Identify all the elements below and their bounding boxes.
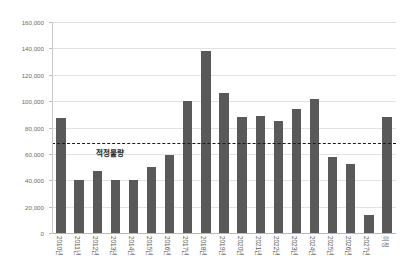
y-tick-mark [49,101,52,102]
y-tick-mark [49,22,52,23]
bars-layer [52,22,396,233]
bar [147,167,156,233]
x-tick-label: 2022년 [272,236,281,256]
y-axis-labels: 160,000140,000120,000100,00080,00060,000… [0,0,48,280]
bar-chart: 160,000140,000120,000100,00080,00060,000… [0,0,414,280]
plot-area: 적정물량 [52,22,396,233]
bar [111,180,120,233]
x-tick-label: 2016년 [163,236,172,256]
x-tick-label: 2015년 [145,236,154,256]
y-tick-label: 80,000 [25,124,44,131]
bar [93,171,102,233]
x-tick-label: 2026년 [344,236,353,256]
bar [56,118,65,233]
bar [165,155,174,233]
x-tick-label: 2012년 [91,236,100,256]
bar [310,99,319,234]
x-tick-label: 2014년 [127,236,136,256]
x-tick-label: 2020년 [236,236,245,256]
bar [237,117,246,233]
y-tick-label: 120,000 [22,71,44,78]
y-tick-label: 20,000 [25,203,44,210]
y-tick-label: 140,000 [22,45,44,52]
x-tick-label: 2010년 [55,236,64,256]
x-tick-label: 2011년 [73,236,82,256]
target-reference-line [52,143,396,144]
x-tick-label: 2024년 [308,236,317,256]
bar [274,121,283,233]
bar [328,157,337,233]
bar [201,51,210,233]
y-tick-mark [49,48,52,49]
x-axis-labels: 2010년2011년2012년2013년2014년2015년2016년2017년… [52,234,396,280]
y-tick-label: 60,000 [25,150,44,157]
bar [256,116,265,233]
y-tick-mark [49,233,52,234]
y-tick-label: 160,000 [22,19,44,26]
x-tick-label: 2023년 [290,236,299,256]
y-tick-mark [49,207,52,208]
x-tick-label: 2019년 [218,236,227,256]
bar [129,180,138,233]
y-tick-mark [49,75,52,76]
y-tick-mark [49,154,52,155]
bar [382,117,391,233]
x-tick-label: 2018년 [199,236,208,256]
x-tick-label: 2027년 [362,236,371,256]
bar [183,101,192,233]
bar [219,93,228,233]
y-tick-label: 100,000 [22,98,44,105]
target-line-label: 적정물량 [96,147,123,158]
bar [364,215,373,233]
bar [292,109,301,233]
y-tick-label: 0 [41,230,44,237]
bar [346,164,355,233]
y-tick-mark [49,128,52,129]
x-tick-label: 2021년 [254,236,263,256]
x-tick-label: 2025년 [326,236,335,256]
y-tick-mark [49,180,52,181]
bar [74,180,83,233]
y-axis-line [52,22,53,234]
x-tick-label: 2013년 [109,236,118,256]
y-tick-label: 40,000 [25,177,44,184]
x-tick-label: 2017년 [181,236,190,256]
x-tick-label: 미정 [381,236,390,248]
